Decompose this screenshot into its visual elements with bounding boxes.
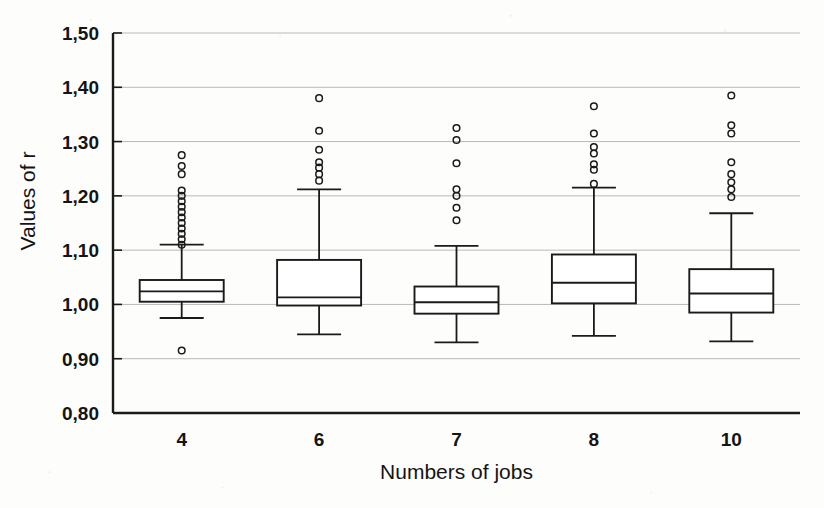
outlier-4-12 bbox=[178, 171, 185, 178]
ytick-label-1-00: 1,00 bbox=[62, 294, 99, 315]
outlier-8-3 bbox=[591, 150, 598, 157]
outlier-8-0 bbox=[591, 181, 598, 188]
outlier-10-3 bbox=[728, 171, 735, 178]
xtick-label-6: 6 bbox=[314, 429, 325, 450]
outlier-4-14 bbox=[178, 152, 185, 159]
ytick-label-1-20: 1,20 bbox=[62, 186, 99, 207]
boxplot-chart: 0,800,901,001,101,201,301,401,50Values o… bbox=[0, 0, 824, 508]
xtick-label-8: 8 bbox=[589, 429, 600, 450]
outlier-10-6 bbox=[728, 122, 735, 129]
outlier-6-5 bbox=[316, 127, 323, 134]
outlier-10-0 bbox=[728, 194, 735, 201]
ytick-label-0-90: 0,90 bbox=[62, 349, 99, 370]
ytick-label-1-10: 1,10 bbox=[62, 240, 99, 261]
outlier-10-2 bbox=[728, 179, 735, 186]
xtick-label-4: 4 bbox=[176, 429, 187, 450]
outlier-6-1 bbox=[316, 171, 323, 178]
outlier-7-6 bbox=[453, 125, 460, 132]
outlier-7-4 bbox=[453, 160, 460, 167]
outlier-6-6 bbox=[316, 95, 323, 102]
outlier-10-5 bbox=[728, 130, 735, 137]
outlier-8-5 bbox=[591, 130, 598, 137]
ytick-label-1-50: 1,50 bbox=[62, 23, 99, 44]
ytick-label-0-80: 0,80 bbox=[62, 403, 99, 424]
outlier-4-0 bbox=[178, 347, 185, 354]
outlier-7-3 bbox=[453, 186, 460, 193]
x-axis-title: Numbers of jobs bbox=[380, 460, 533, 483]
figure-container: 0,800,901,001,101,201,301,401,50Values o… bbox=[0, 0, 824, 508]
box-7[interactable] bbox=[415, 287, 499, 314]
outlier-4-13 bbox=[178, 163, 185, 170]
outlier-10-4 bbox=[728, 159, 735, 166]
box-6[interactable] bbox=[277, 260, 361, 306]
xtick-label-7: 7 bbox=[451, 429, 462, 450]
outlier-6-4 bbox=[316, 146, 323, 153]
y-axis-title: Values of r bbox=[16, 152, 39, 251]
ytick-label-1-30: 1,30 bbox=[62, 132, 99, 153]
box-8[interactable] bbox=[552, 254, 636, 303]
outlier-8-4 bbox=[591, 144, 598, 151]
ytick-label-1-40: 1,40 bbox=[62, 77, 99, 98]
outlier-6-0 bbox=[316, 177, 323, 184]
outlier-10-1 bbox=[728, 186, 735, 193]
outlier-7-5 bbox=[453, 137, 460, 144]
box-10[interactable] bbox=[689, 269, 773, 312]
outlier-10-7 bbox=[728, 92, 735, 99]
outlier-7-0 bbox=[453, 217, 460, 224]
outlier-8-6 bbox=[591, 103, 598, 110]
outlier-7-1 bbox=[453, 205, 460, 212]
xtick-label-10: 10 bbox=[721, 429, 742, 450]
